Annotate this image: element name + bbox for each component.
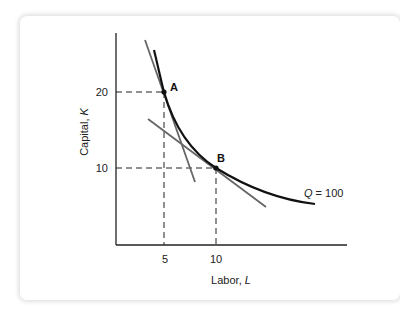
- x-axis-label-text: Labor,: [211, 274, 245, 286]
- x-axis-label-var: L: [245, 274, 251, 286]
- y-axis-label: Capital, K: [78, 107, 90, 155]
- tangent-line-b: [148, 119, 266, 207]
- point-a-label: A: [170, 81, 178, 93]
- x-tick-10: 10: [210, 253, 222, 265]
- point-b-label: B: [217, 152, 225, 164]
- dashed-guides: [116, 92, 216, 245]
- point-a-marker: [161, 89, 166, 94]
- y-tick-20: 20: [96, 86, 108, 98]
- point-b-marker: [213, 165, 218, 170]
- isoquant-label-value: = 100: [313, 187, 344, 199]
- y-axis-label-text: Capital,: [78, 115, 90, 155]
- isoquant-label: Q = 100: [304, 187, 343, 199]
- x-axis-label: Labor, L: [211, 274, 251, 286]
- x-tick-5: 5: [162, 253, 168, 265]
- isoquant-curve: [154, 50, 315, 204]
- y-tick-10: 10: [96, 162, 108, 174]
- y-axis-label-var: K: [78, 107, 90, 115]
